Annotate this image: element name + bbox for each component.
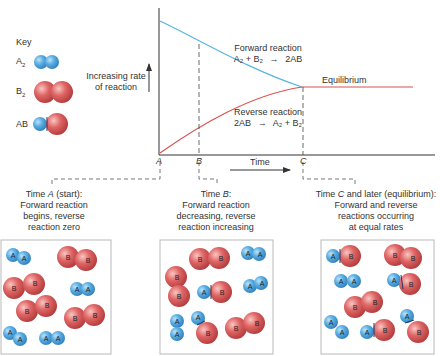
svg-text:B: B [198,256,203,263]
caption-c-post: and later (equilibrium): [344,189,436,199]
caption-c-pre: Time [316,189,338,199]
svg-text:A: A [44,335,49,342]
reverse-eq-lhs: 2AB [234,118,251,128]
svg-text:B: B [409,281,414,288]
caption-b-line3: decreasing, reverse [158,211,274,222]
key-label-a2: A2 [16,56,25,71]
x-axis-label: Time [250,157,270,168]
svg-text:A: A [175,331,180,338]
caption-b-line4: reaction increasing [158,222,274,233]
caption-a-line4: reaction zero [0,222,108,233]
reaction-arrow-icon: → [258,118,267,129]
svg-text:A: A [202,289,207,296]
box-b-molecules: BB AA BB AB AA AA AB BB [165,246,268,344]
caption-a-pre: Time [26,189,48,199]
svg-text:A: A [405,313,410,320]
svg-text:A: A [339,278,344,285]
key-molecule-b2 [34,81,73,103]
key-label-b2: B2 [16,86,25,101]
svg-text:A: A [196,314,201,321]
svg-text:B: B [234,325,239,332]
forward-reaction-title: Forward reaction [218,43,318,54]
reverse-reaction-label: Reverse reaction 2AB → A₂ + B₂ [218,107,318,129]
svg-text:A: A [175,318,180,325]
svg-text:B: B [206,330,211,337]
svg-text:A: A [365,329,370,336]
x-tick-c: C [300,156,307,167]
box-c-molecules: AB BB AA AB BB AA AB AB [324,244,429,343]
caption-b-line2: Forward reaction [158,200,274,211]
forward-eq-rhs: 2AB [285,54,302,64]
caption-b-pre: Time [201,189,223,199]
box-a-molecules: AA BB BB AA BB BB AA AA [3,246,105,346]
key-label-a2-sub: 2 [22,62,25,68]
svg-text:A: A [331,253,336,260]
caption-a-line2: Forward reaction [0,200,108,211]
svg-text:A: A [329,319,334,326]
svg-text:A: A [246,250,251,257]
caption-a-line3: begins, reverse [0,211,108,222]
caption-c-line2: Forward and reverse [310,200,440,211]
reaction-arrow-icon: → [270,54,279,65]
svg-text:A: A [260,280,265,287]
key-title: Key [16,37,32,48]
svg-text:A: A [248,283,253,290]
svg-text:A: A [86,286,91,293]
caption-a-post: (start): [54,189,83,199]
svg-text:B: B [349,253,354,260]
svg-text:B: B [45,302,50,309]
caption-a-line1: Time A (start): [0,189,108,200]
svg-text:B: B [66,254,71,261]
svg-text:B: B [353,304,358,311]
caption-c-line4: at equal rates [310,222,440,233]
svg-text:A: A [340,329,345,336]
svg-text:B: B [373,299,378,306]
svg-text:B: B [73,315,78,322]
caption-time-b: Time B: Forward reaction decreasing, rev… [158,189,274,233]
svg-text:B: B [219,255,224,262]
key-molecule-a2 [34,55,59,69]
equilibrium-label: Equilibrium [322,75,367,86]
reverse-reaction-title: Reverse reaction [218,107,318,118]
svg-text:B: B [411,255,416,262]
svg-text:A: A [258,251,263,258]
svg-text:B: B [93,312,98,319]
svg-text:A: A [352,278,357,285]
svg-text:B: B [383,327,388,334]
forward-reaction-equation: A₂ + B₂ → 2AB [218,54,318,65]
svg-text:B: B [25,308,30,315]
key-label-ab: AB [16,119,28,130]
svg-text:A: A [22,255,27,262]
caption-b-line1: Time B: [158,189,274,200]
svg-text:A: A [8,329,13,336]
caption-b-post: : [229,189,232,199]
x-tick-b: B [196,156,202,167]
forward-reaction-label: Forward reaction A₂ + B₂ → 2AB [218,43,318,65]
svg-text:A: A [18,336,23,343]
reverse-reaction-equation: 2AB → A₂ + B₂ [218,118,318,129]
svg-text:A: A [75,286,80,293]
caption-connectors [52,162,355,185]
svg-text:B: B [220,289,225,296]
x-tick-a: A [156,156,162,167]
svg-text:A: A [56,335,61,342]
y-axis-label-line2: of reaction [86,82,146,93]
svg-text:B: B [12,285,17,292]
svg-text:B: B [33,280,38,287]
svg-text:B: B [177,293,182,300]
svg-text:B: B [175,274,180,281]
key-label-b2-sub: 2 [22,92,25,98]
caption-c-line1: Time C and later (equilibrium): [310,189,440,200]
svg-text:B: B [255,320,260,327]
caption-c-line3: reactions occurring [310,211,440,222]
reverse-eq-rhs: A₂ + B₂ [273,118,302,128]
key-molecule-ab [33,113,68,135]
forward-eq-lhs: A₂ + B₂ [234,54,263,64]
svg-text:B: B [393,252,398,259]
svg-text:A: A [11,252,16,259]
caption-time-a: Time A (start): Forward reaction begins,… [0,189,108,233]
svg-text:B: B [417,329,422,336]
svg-text:A: A [392,277,397,284]
y-axis-label-line1: Increasing rate [86,71,146,82]
y-axis-label: Increasing rate of reaction [86,71,146,93]
